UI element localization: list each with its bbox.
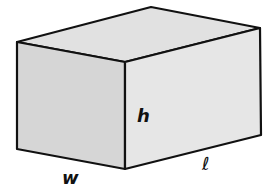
- length-label: ℓ: [201, 153, 209, 174]
- width-label: w: [62, 167, 79, 188]
- height-label: h: [137, 105, 150, 126]
- front-face: [17, 42, 125, 169]
- rectangular-prism-diagram: h w ℓ: [0, 0, 274, 192]
